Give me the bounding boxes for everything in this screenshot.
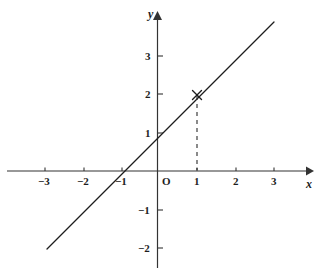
- y-tick-label-neg2: −2: [138, 243, 150, 254]
- origin-label: O: [162, 176, 171, 187]
- y-tick-label-3: 3: [145, 51, 150, 62]
- x-tick-label-neg2: −2: [77, 176, 89, 187]
- y-tick-label-2: 2: [145, 89, 150, 100]
- x-axis-label: x: [306, 178, 312, 190]
- y-axis-ticks: [158, 56, 164, 248]
- x-tick-label-1: 1: [194, 176, 199, 187]
- y-axis-label: y: [148, 8, 153, 20]
- x-tick-label-2: 2: [233, 176, 238, 187]
- coordinate-plane: [0, 0, 324, 279]
- x-axis-arrow-icon: [306, 167, 314, 176]
- y-axis-arrow-icon: [153, 11, 162, 20]
- y-tick-label-neg1: −1: [138, 205, 150, 216]
- x-tick-label-neg1: −1: [115, 176, 127, 187]
- x-tick-label-3: 3: [271, 176, 276, 187]
- x-tick-label-neg3: −3: [38, 176, 50, 187]
- graph-figure: y x O −3 −2 −1 1 2 3 3 2 1 −1 −2: [0, 0, 324, 279]
- y-tick-label-1: 1: [145, 128, 150, 139]
